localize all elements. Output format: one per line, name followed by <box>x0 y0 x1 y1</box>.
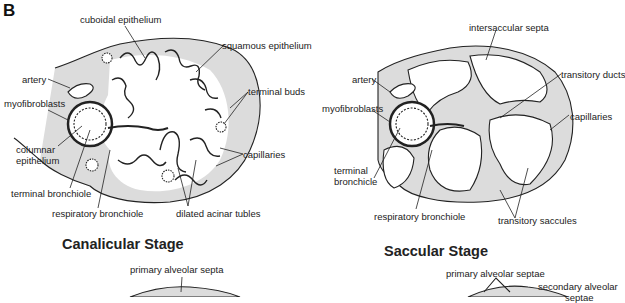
alveolar-partial-diagrams <box>130 277 568 297</box>
label-respiratory-bronchiole: respiratory bronchiole <box>52 208 143 219</box>
label-terminal-bronchiole: terminal bronchiole <box>11 188 91 199</box>
title-saccular-stage: Saccular Stage <box>384 243 488 259</box>
label-secondary-alveolar-septae-line1: secondary alveolar <box>538 281 618 292</box>
label-myofibroblasts: myofibroblasts <box>4 98 65 109</box>
label-cuboidal-epithelium: cuboidal epithelium <box>80 14 161 25</box>
label-columnar-epithelium-line2: epithelium <box>16 155 59 166</box>
label-terminal-bronchiole-line2: bronchicle <box>334 176 377 187</box>
label-secondary-alveolar-septae-line2: septae <box>565 292 594 303</box>
label-transitory-ducts: transitory ducts <box>561 69 625 80</box>
label-artery: artery <box>352 74 376 85</box>
label-capillaries: capillaries <box>570 111 612 122</box>
label-respiratory-bronchiole: respiratory bronchiole <box>374 211 465 222</box>
label-transitory-saccules: transitory saccules <box>498 215 577 226</box>
canalicular-diagram <box>14 26 260 208</box>
label-dilated-acinar-tubles: dilated acinar tubles <box>176 208 261 219</box>
label-terminal-bronchiole-line1: terminal <box>334 165 368 176</box>
saccular-diagram <box>372 30 573 218</box>
label-primary-alveolar-septae: primary alveolar septae <box>446 268 545 279</box>
label-artery: artery <box>22 74 46 85</box>
label-terminal-buds: terminal buds <box>248 86 305 97</box>
label-capillaries: capillaries <box>243 149 285 160</box>
label-primary-alveolar-septa: primary alveolar septa <box>130 264 223 275</box>
label-columnar-epithelium-line1: columnar <box>16 144 55 155</box>
label-intersaccular-septa: intersaccular septa <box>469 22 549 33</box>
label-myofibroblasts: myofibroblasts <box>322 103 383 114</box>
label-squamous-epithelium: squamous epithelium <box>222 40 312 51</box>
title-canalicular-stage: Canalicular Stage <box>62 236 184 252</box>
